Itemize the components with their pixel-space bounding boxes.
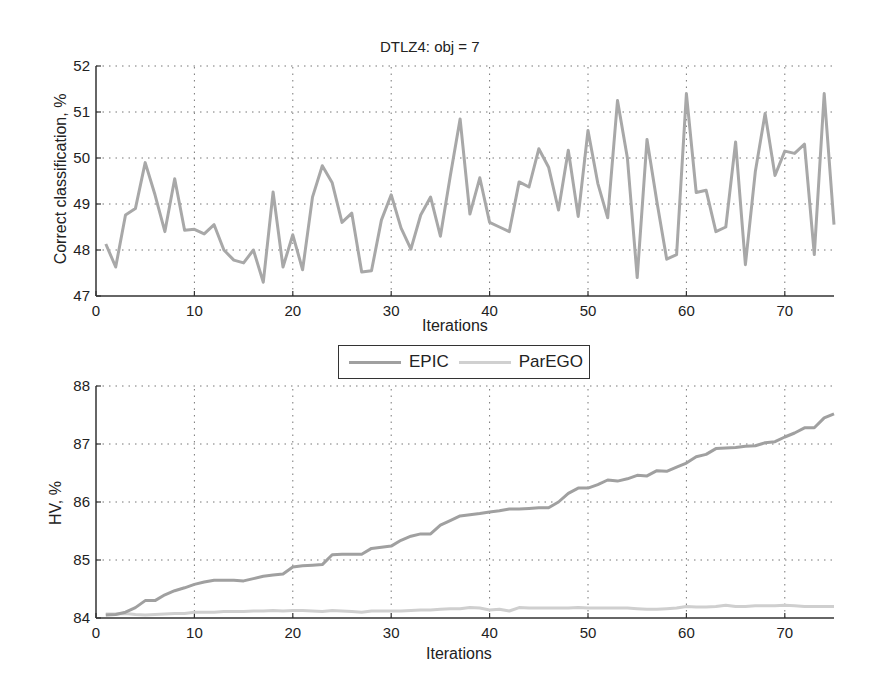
chart-title: DTLZ4: obj = 7 bbox=[380, 38, 480, 55]
series-line-epic bbox=[106, 414, 834, 615]
x-tick-label: 70 bbox=[776, 302, 793, 319]
legend-label-epic: EPIC bbox=[409, 352, 449, 372]
x-tick-label: 10 bbox=[186, 624, 203, 641]
x-tick-label: 20 bbox=[284, 302, 301, 319]
y-tick-label: 85 bbox=[73, 551, 90, 568]
top-x-axis-label: Iterations bbox=[422, 317, 488, 335]
y-tick-label: 87 bbox=[73, 435, 90, 452]
legend-label-parego: ParEGO bbox=[519, 352, 583, 372]
y-tick-label: 52 bbox=[73, 57, 90, 74]
series-line-correct-classification bbox=[106, 94, 834, 283]
legend-item-parego: ParEGO bbox=[459, 352, 583, 372]
y-tick-label: 86 bbox=[73, 493, 90, 510]
x-tick-label: 60 bbox=[678, 624, 695, 641]
legend: EPIC ParEGO bbox=[338, 345, 590, 379]
y-tick-label: 51 bbox=[73, 103, 90, 120]
y-tick-label: 48 bbox=[73, 241, 90, 258]
figure: 0102030405060704748495051520102030405060… bbox=[0, 0, 873, 698]
x-tick-label: 0 bbox=[92, 302, 100, 319]
x-tick-label: 30 bbox=[383, 624, 400, 641]
x-tick-label: 20 bbox=[284, 624, 301, 641]
legend-swatch-parego bbox=[459, 361, 511, 364]
x-tick-label: 30 bbox=[383, 302, 400, 319]
legend-item-epic: EPIC bbox=[349, 352, 449, 372]
x-tick-label: 70 bbox=[776, 624, 793, 641]
bottom-plot: 0102030405060708485868788 bbox=[73, 377, 834, 641]
y-tick-label: 49 bbox=[73, 195, 90, 212]
x-tick-label: 50 bbox=[580, 302, 597, 319]
x-tick-label: 40 bbox=[481, 624, 498, 641]
top-y-axis-label: Correct classification, % bbox=[52, 79, 70, 279]
y-tick-label: 84 bbox=[73, 609, 90, 626]
x-tick-label: 50 bbox=[580, 624, 597, 641]
top-plot: 010203040506070474849505152 bbox=[73, 57, 834, 319]
x-tick-label: 10 bbox=[186, 302, 203, 319]
legend-swatch-epic bbox=[349, 361, 401, 364]
bottom-y-axis-label: HV, % bbox=[47, 463, 65, 543]
bottom-x-axis-label: Iterations bbox=[426, 645, 492, 663]
series-line-parego bbox=[106, 605, 834, 615]
y-tick-label: 88 bbox=[73, 377, 90, 394]
x-tick-label: 0 bbox=[92, 624, 100, 641]
x-tick-label: 60 bbox=[678, 302, 695, 319]
y-tick-label: 47 bbox=[73, 287, 90, 304]
y-tick-label: 50 bbox=[73, 149, 90, 166]
